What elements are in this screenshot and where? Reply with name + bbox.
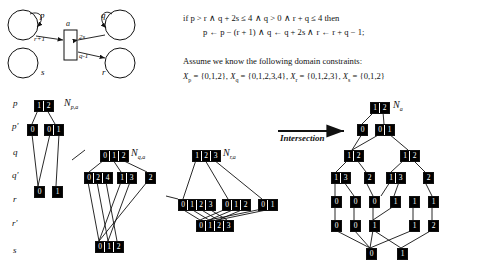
mdd-r-node-r4[interactable]: 01 [258,199,278,211]
mdd-q-cell[interactable]: 2 [119,151,128,161]
mdd-q-node-q1[interactable]: 012 [100,150,129,162]
mdd-result-cell[interactable]: 3 [396,173,405,183]
mdd-result-cell[interactable]: 0 [332,221,341,231]
mdd-p-node-p4[interactable]: 0 [34,186,45,198]
mdd-result-cell[interactable]: 0 [370,197,379,207]
mdd-p-cell[interactable]: 0 [45,125,54,135]
mdd-q-node-q4[interactable]: 2 [145,172,156,184]
mdd-r-cell[interactable]: 0 [179,200,188,210]
mdd-p-cell[interactable]: 0 [28,125,37,135]
mdd-result-node-a8[interactable]: 13 [386,172,406,184]
mdd-result-cell[interactable]: 0 [376,125,385,135]
mdd-result-node-a9[interactable]: 2 [423,172,434,184]
mdd-result-cell[interactable]: 1 [370,221,379,231]
mdd-r-cell[interactable]: 1 [193,151,202,161]
mdd-result-cell[interactable]: 0 [332,197,341,207]
mdd-result-node-a20[interactable]: 2 [428,220,439,232]
mdd-result-node-a16[interactable]: 0 [331,220,342,232]
mdd-p-cell[interactable]: 1 [54,125,63,135]
mdd-q-cell[interactable]: 1 [110,151,119,161]
mdd-q-cell[interactable]: 2 [146,173,155,183]
mdd-result-node-a14[interactable]: 1 [409,196,420,208]
mdd-r-node-r1[interactable]: 123 [192,150,221,162]
mdd-r-node-r3[interactable]: 012 [222,199,251,211]
mdd-r-cell[interactable]: 3 [206,200,215,210]
mdd-result-node-a7[interactable]: 2 [364,172,375,184]
mdd-result-node-a1[interactable]: 12 [370,102,390,114]
mdd-q-cell[interactable]: 4 [103,173,112,183]
mdd-result-cell[interactable]: 1 [385,125,394,135]
mdd-result-node-a13[interactable]: 1 [390,196,401,208]
mdd-result-node-a21[interactable]: 0 [366,248,377,260]
mdd-result-cell[interactable]: 3 [341,173,350,183]
mdd-q-cell[interactable]: 0 [85,173,94,183]
mdd-result-node-a5[interactable]: 12 [400,150,420,162]
mdd-r-node-r2[interactable]: 0123 [178,199,216,211]
mdd-q-cell[interactable]: 1 [105,242,114,252]
mdd-r-cell[interactable]: 2 [241,200,250,210]
mdd-r-cell[interactable]: 1 [268,200,277,210]
mdd-q-cell[interactable]: 2 [94,173,103,183]
mdd-result-cell[interactable]: 2 [424,173,433,183]
mdd-q-node-q2[interactable]: 024 [84,172,113,184]
mdd-result-node-a18[interactable]: 1 [369,220,380,232]
mdd-q-cell[interactable]: 0 [96,242,105,252]
mdd-result-cell[interactable]: 0 [351,221,360,231]
mdd-result-node-a22[interactable]: 1 [397,248,408,260]
mdd-r-cell[interactable]: 0 [223,200,232,210]
mdd-result-cell[interactable]: 0 [358,125,367,135]
mdd-r-cell[interactable]: 2 [197,200,206,210]
mdd-result-cell[interactable]: 1 [398,249,407,259]
mdd-result-node-a3[interactable]: 01 [375,124,395,136]
mdd-q-cell[interactable]: 3 [127,173,136,183]
mdd-result-cell[interactable]: 0 [351,197,360,207]
mdd-result-cell[interactable]: 2 [380,103,389,113]
mdd-r-cell[interactable]: 3 [211,151,220,161]
mdd-result-cell[interactable]: 1 [391,197,400,207]
mdd-p-node-p2[interactable]: 0 [27,124,38,136]
mdd-result-cell[interactable]: 1 [410,197,419,207]
mdd-p-node-p5[interactable]: 1 [52,186,63,198]
mdd-result-cell[interactable]: 2 [410,151,419,161]
mdd-result-cell[interactable]: 0 [367,249,376,259]
mdd-p-cell[interactable]: 2 [44,101,53,111]
mdd-result-node-a19[interactable]: 1 [409,220,420,232]
mdd-r-cell[interactable]: 0 [259,200,268,210]
mdd-p-cell[interactable]: 1 [35,101,44,111]
mdd-result-cell[interactable]: 1 [387,173,396,183]
mdd-result-cell[interactable]: 2 [354,151,363,161]
mdd-q-cell[interactable]: 0 [101,151,110,161]
mdd-r-node-r5[interactable]: 0123 [196,220,234,232]
mdd-result-node-a10[interactable]: 0 [331,196,342,208]
mdd-p-node-p3[interactable]: 01 [44,124,64,136]
mdd-result-cell[interactable]: 1 [401,151,410,161]
mdd-result-node-a4[interactable]: 12 [344,150,364,162]
mdd-p-node-p1[interactable]: 12 [34,100,54,112]
mdd-result-node-a11[interactable]: 0 [350,196,361,208]
mdd-q-node-q5[interactable]: 012 [95,241,124,253]
mdd-result-node-a17[interactable]: 0 [350,220,361,232]
mdd-result-cell[interactable]: 1 [429,197,438,207]
mdd-result-cell[interactable]: 2 [365,173,374,183]
mdd-r-cell[interactable]: 1 [232,200,241,210]
mdd-r-cell[interactable]: 3 [224,221,233,231]
mdd-result-node-a2[interactable]: 0 [357,124,368,136]
mdd-r-cell[interactable]: 1 [188,200,197,210]
mdd-r-cell[interactable]: 0 [197,221,206,231]
mdd-q-cell[interactable]: 2 [114,242,123,252]
mdd-r-cell[interactable]: 2 [202,151,211,161]
mdd-result-cell[interactable]: 1 [410,221,419,231]
mdd-q-cell[interactable]: 1 [118,173,127,183]
mdd-q-node-q3[interactable]: 13 [117,172,137,184]
mdd-r-cell[interactable]: 2 [215,221,224,231]
mdd-result-node-a15[interactable]: 1 [428,196,439,208]
mdd-result-node-a12[interactable]: 0 [369,196,380,208]
mdd-result-cell[interactable]: 2 [429,221,438,231]
mdd-result-cell[interactable]: 1 [345,151,354,161]
mdd-r-cell[interactable]: 1 [206,221,215,231]
mdd-result-node-a6[interactable]: 13 [331,172,351,184]
mdd-result-cell[interactable]: 1 [371,103,380,113]
mdd-p-cell[interactable]: 0 [35,187,44,197]
mdd-p-cell[interactable]: 1 [53,187,62,197]
mdd-result-cell[interactable]: 1 [332,173,341,183]
